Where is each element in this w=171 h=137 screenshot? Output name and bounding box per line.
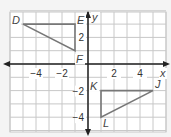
vertex-label-k: K <box>90 80 98 92</box>
vertex-label-d: D <box>12 14 20 26</box>
y-tick-label: −2 <box>73 86 85 97</box>
y-tick-label: −4 <box>73 112 85 123</box>
x-tick-label: −4 <box>30 68 42 79</box>
vertex-label-l: L <box>103 117 109 129</box>
y-tick-label: 2 <box>78 32 84 43</box>
vertex-label-j: J <box>154 78 161 90</box>
x-axis-left-arrow-icon <box>3 61 10 67</box>
vertex-label-e: E <box>77 14 85 26</box>
x-tick-label: 4 <box>137 68 143 79</box>
x-tick-label: 2 <box>111 68 117 79</box>
coordinate-plane: −4−2242−2−4yx DEFKJL <box>0 0 171 137</box>
x-tick-label: −2 <box>56 68 68 79</box>
